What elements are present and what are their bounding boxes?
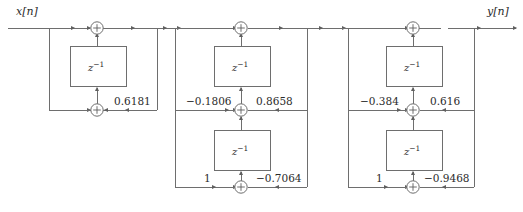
coef-s2-a-right: 0.8658 [256,96,293,107]
coef-s2-b-left: 1 [204,173,211,184]
coef-s3-b-left: 1 [376,173,383,184]
coef-s3-a-right: 0.616 [430,96,460,107]
delay-label-s2-2: z−1 [232,145,248,157]
signal-flow-diagram: x[n] y[n] z−1 z−1 z−1 z−1 z−1 0.6181 −0.… [0,0,523,212]
coef-s1-k1: 0.6181 [114,96,151,107]
delay-label-s3-1: z−1 [404,61,420,73]
coef-s3-a-left: −0.384 [360,96,399,107]
delay-label-s2-1: z−1 [232,61,248,73]
output-label: y[n] [487,6,509,17]
coef-s2-b-right: −0.7064 [256,173,302,184]
delay-label-s1: z−1 [88,61,104,73]
input-label: x[n] [16,6,38,17]
coef-s2-a-left: −0.1806 [186,96,232,107]
coef-s3-b-right: −0.9468 [424,173,470,184]
delay-label-s3-2: z−1 [404,145,420,157]
adder-plus-glyphs [93,24,417,191]
